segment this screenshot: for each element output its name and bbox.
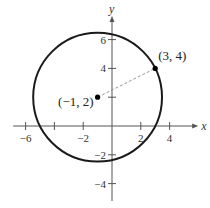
x-axis-label: x [200, 119, 207, 133]
y-axis-arrowhead [110, 16, 115, 22]
y-tick-label: −2 [94, 149, 106, 161]
tick-labels: −6−22464−2−4 [20, 34, 173, 190]
coordinate-plane: x y −6−22464−2−4 (−1, 2)(3, 4) [0, 0, 210, 208]
x-axis-arrowhead [192, 124, 198, 129]
y-axis-label: y [108, 2, 115, 16]
x-tick-label: −6 [20, 132, 32, 144]
point-on-circle [153, 66, 158, 71]
axes: x y −6−22464−2−4 [13, 2, 207, 201]
point-label-center: (−1, 2) [58, 94, 94, 109]
y-tick-label: 6 [101, 34, 107, 46]
y-tick-label: −4 [94, 178, 106, 190]
x-tick-label: −2 [77, 132, 89, 144]
y-tick-label: 4 [101, 62, 107, 74]
x-tick-label: 4 [167, 132, 173, 144]
points: (−1, 2)(3, 4) [58, 48, 186, 109]
point-label-on-circle: (3, 4) [158, 48, 186, 63]
radius-dashed-segment [98, 68, 156, 97]
point-center [95, 95, 100, 100]
